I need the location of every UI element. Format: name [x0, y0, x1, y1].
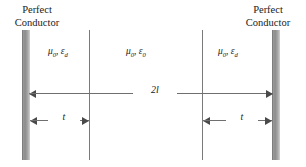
left-conductor-caption: Perfect Conductor [1, 4, 73, 29]
right-conductor-caption-line2: Conductor [232, 17, 304, 30]
right-conductor-caption: Perfect Conductor [232, 4, 304, 29]
left-medium-epsilon-subscript: d [65, 51, 68, 58]
right-thickness-dimension: t [203, 115, 272, 126]
total-dimension-label: 2l [133, 84, 177, 95]
right-thickness-label: t [226, 111, 258, 122]
left-thickness-label: t [48, 111, 80, 122]
right-medium-epsilon-subscript: d [235, 51, 238, 58]
physics-diagram-parallel-plate: Perfect Conductor Perfect Conductor μ0, … [0, 0, 306, 167]
left-medium-parameters: μ0, εd [48, 46, 68, 58]
left-thickness-dimension: t [30, 115, 89, 126]
right-conductor-caption-line1: Perfect [232, 4, 304, 17]
left-thickness-right-arrowhead [82, 117, 89, 125]
left-conductor-caption-line1: Perfect [1, 4, 73, 17]
center-medium-epsilon-subscript: 0 [143, 51, 146, 58]
center-medium-parameters: μ0, ε0 [126, 46, 146, 58]
total-dimension-right-arrowhead [266, 90, 273, 98]
right-medium-parameters: μ0, εd [218, 46, 238, 58]
total-separation-dimension: 2l [29, 88, 273, 99]
right-perfect-conductor-bar [272, 30, 280, 160]
right-thickness-right-arrowhead [265, 117, 272, 125]
left-conductor-caption-line2: Conductor [1, 17, 73, 30]
